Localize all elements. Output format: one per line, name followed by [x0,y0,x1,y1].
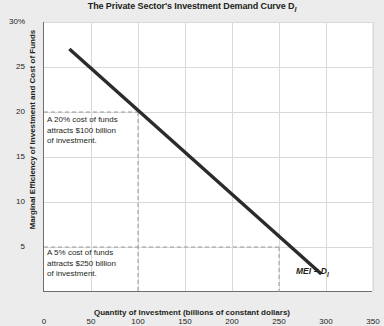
x-tick-label: 150 [165,318,205,326]
curve-label: MEI = DI [296,266,329,278]
y-tick-label: 5 [0,243,25,251]
curve-label-subscript: I [327,271,329,278]
y-axis-label: Marginal Efficiency of Investment and Co… [28,30,37,230]
y-tick-label: 25 [0,63,25,71]
x-tick-label: 300 [306,318,346,326]
x-tick-label: 50 [71,318,111,326]
x-tick-label: 350 [353,318,384,326]
annotation-line: of investment. [47,136,118,147]
annotation-line: A 5% cost of funds [47,248,116,259]
y-tick-label: 30% [0,18,25,26]
demand-curve [69,49,321,274]
y-tick-label: 20 [0,108,25,116]
x-tick-label: 0 [24,318,64,326]
y-tick-label: 15 [0,153,25,161]
annotation-20-percent: A 20% cost of fundsattracts $100 billion… [47,115,118,147]
y-tick-label: 10 [0,198,25,206]
annotation-line: attracts $250 billion [47,259,116,270]
x-tick-label: 250 [259,318,299,326]
chart-title-text: The Private Sector's Investment Demand C… [88,1,295,11]
annotation-5-percent: A 5% cost of fundsattracts $250 billiono… [47,248,116,280]
x-axis-label: Quantity of Investment (billions of cons… [0,308,384,317]
demand-curve-line [69,49,321,274]
chart-title: The Private Sector's Investment Demand C… [0,1,384,13]
annotation-line: attracts $100 billion [47,126,118,137]
x-tick-label: 200 [212,318,252,326]
gridline-vertical [373,22,374,291]
plot-area: 51015202530% 050100150200250300350 A 20%… [43,22,372,292]
annotation-line: A 20% cost of funds [47,115,118,126]
curve-label-text: MEI = D [296,266,327,276]
x-tick-label: 100 [118,318,158,326]
annotation-line: of investment. [47,269,116,280]
chart-title-subscript: I [294,1,296,11]
